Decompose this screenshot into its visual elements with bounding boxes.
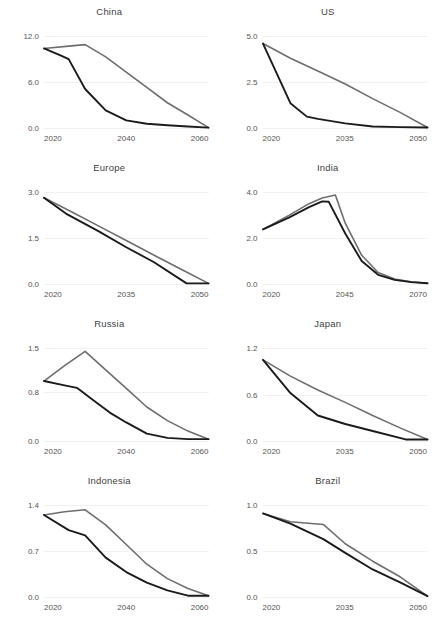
y-axis-tick-label: 5.0 <box>246 32 257 41</box>
series-lines <box>263 27 428 128</box>
y-axis-tick-label: 0.5 <box>246 547 257 556</box>
series-line-gray <box>44 198 209 284</box>
panel-title: Europe <box>0 162 219 173</box>
plot-area: 0.02.04.0202020452070 <box>263 183 428 284</box>
y-axis-tick-label: 1.0 <box>246 501 257 510</box>
gridline <box>44 284 209 285</box>
series-lines <box>263 339 428 441</box>
y-axis-tick-label: 0.0 <box>28 280 39 289</box>
plot-area: 0.02.55.0202020352050 <box>263 27 428 128</box>
gridline <box>263 284 428 285</box>
chart-panel-brazil: Brazil0.00.51.0202020352050 <box>219 469 437 625</box>
y-axis-tick-label: 1.4 <box>28 501 39 510</box>
x-axis-tick-label: 2050 <box>409 603 427 612</box>
y-axis-tick-label: 1.5 <box>28 234 39 243</box>
y-axis-tick-label: 6.0 <box>28 78 39 87</box>
plot-area: 0.00.61.2202020352050 <box>263 339 428 441</box>
series-lines <box>44 339 209 441</box>
gridline <box>263 441 428 442</box>
y-axis-tick-label: 0.0 <box>28 437 39 446</box>
y-axis-tick-label: 0.8 <box>28 387 39 396</box>
x-axis-tick-label: 2070 <box>409 290 427 299</box>
y-axis-tick-label: 4.0 <box>246 188 257 197</box>
y-axis-tick-label: 0.0 <box>246 437 257 446</box>
plot-area: 0.00.51.0202020352050 <box>263 496 428 597</box>
y-axis-tick-label: 0.0 <box>246 593 257 602</box>
plot-area: 0.06.012.0202020402060 <box>44 27 209 128</box>
series-line-gray <box>263 360 428 440</box>
x-axis-tick-label: 2020 <box>263 603 281 612</box>
series-line-dark <box>263 513 428 596</box>
series-lines <box>44 27 209 128</box>
panel-title: US <box>219 6 437 17</box>
gridline <box>44 441 209 442</box>
series-lines <box>263 496 428 597</box>
x-axis-tick-label: 2020 <box>44 603 62 612</box>
y-axis-tick-label: 3.0 <box>28 188 39 197</box>
x-axis-tick-label: 2035 <box>336 134 354 143</box>
x-axis-tick-label: 2040 <box>117 603 135 612</box>
y-axis-tick-label: 0.7 <box>28 547 39 556</box>
y-axis-tick-label: 0.6 <box>246 390 257 399</box>
x-axis-tick-label: 2050 <box>191 290 209 299</box>
y-axis-tick-label: 0.0 <box>246 280 257 289</box>
series-line-dark <box>263 201 428 283</box>
x-axis-tick-label: 2020 <box>263 134 281 143</box>
y-axis-tick-label: 0.0 <box>28 124 39 133</box>
gridline <box>263 597 428 598</box>
panel-title: Japan <box>219 318 437 329</box>
x-axis-tick-label: 2035 <box>117 290 135 299</box>
gridline <box>263 128 428 129</box>
chart-panel-russia: Russia0.00.81.5202020402060 <box>0 312 219 469</box>
x-axis-tick-label: 2040 <box>117 134 135 143</box>
y-axis-tick-label: 1.5 <box>28 344 39 353</box>
chart-panel-europe: Europe0.01.53.0202020352050 <box>0 156 219 312</box>
series-lines <box>44 183 209 284</box>
x-axis-tick-label: 2020 <box>263 290 281 299</box>
series-line-gray <box>44 510 209 596</box>
panel-title: China <box>0 6 219 17</box>
plot-area: 0.01.53.0202020352050 <box>44 183 209 284</box>
y-axis-tick-label: 2.0 <box>246 234 257 243</box>
gridline <box>44 128 209 129</box>
series-line-dark <box>44 48 209 127</box>
panel-title: Indonesia <box>0 475 219 486</box>
x-axis-tick-label: 2060 <box>191 134 209 143</box>
panel-title: India <box>219 162 437 173</box>
chart-panel-indonesia: Indonesia0.00.71.4202020402060 <box>0 469 219 625</box>
y-axis-tick-label: 12.0 <box>23 32 39 41</box>
x-axis-tick-label: 2020 <box>44 447 62 456</box>
x-axis-tick-label: 2020 <box>44 134 62 143</box>
x-axis-tick-label: 2060 <box>191 447 209 456</box>
x-axis-tick-label: 2045 <box>336 290 354 299</box>
x-axis-tick-label: 2060 <box>191 603 209 612</box>
chart-panel-china: China0.06.012.0202020402060 <box>0 0 219 156</box>
plot-area: 0.00.71.4202020402060 <box>44 496 209 597</box>
series-lines <box>263 183 428 284</box>
chart-panel-india: India0.02.04.0202020452070 <box>219 156 437 312</box>
series-line-dark <box>44 515 209 596</box>
gridline <box>44 597 209 598</box>
series-lines <box>44 496 209 597</box>
y-axis-tick-label: 2.5 <box>246 78 257 87</box>
x-axis-tick-label: 2020 <box>44 290 62 299</box>
x-axis-tick-label: 2040 <box>117 447 135 456</box>
series-line-dark <box>263 360 428 440</box>
y-axis-tick-label: 1.2 <box>246 344 257 353</box>
series-line-dark <box>44 381 209 439</box>
small-multiples-chart-grid: China0.06.012.0202020402060US0.02.55.020… <box>0 0 437 625</box>
panel-title: Brazil <box>219 475 437 486</box>
x-axis-tick-label: 2035 <box>336 603 354 612</box>
chart-panel-japan: Japan0.00.61.2202020352050 <box>219 312 437 469</box>
y-axis-tick-label: 0.0 <box>28 593 39 602</box>
panel-title: Russia <box>0 318 219 329</box>
y-axis-tick-label: 0.0 <box>246 124 257 133</box>
x-axis-tick-label: 2020 <box>263 447 281 456</box>
series-line-gray <box>263 195 428 283</box>
chart-panel-us: US0.02.55.0202020352050 <box>219 0 437 156</box>
x-axis-tick-label: 2050 <box>409 447 427 456</box>
series-line-gray <box>263 44 428 128</box>
x-axis-tick-label: 2035 <box>336 447 354 456</box>
series-line-gray <box>44 351 209 439</box>
series-line-gray <box>44 45 209 128</box>
